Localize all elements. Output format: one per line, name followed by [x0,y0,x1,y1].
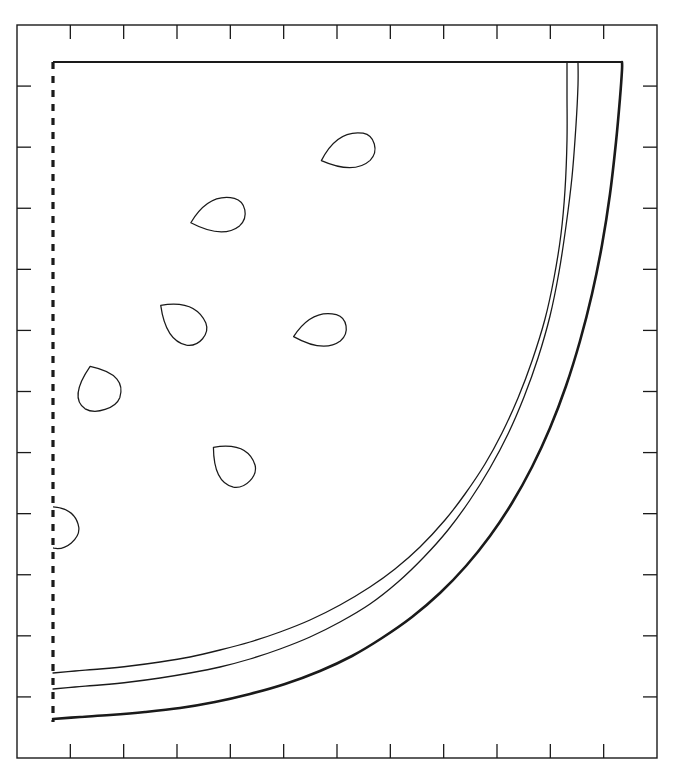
plot-svg [0,0,675,775]
figure-canvas [0,0,675,775]
canvas-background [0,0,675,775]
